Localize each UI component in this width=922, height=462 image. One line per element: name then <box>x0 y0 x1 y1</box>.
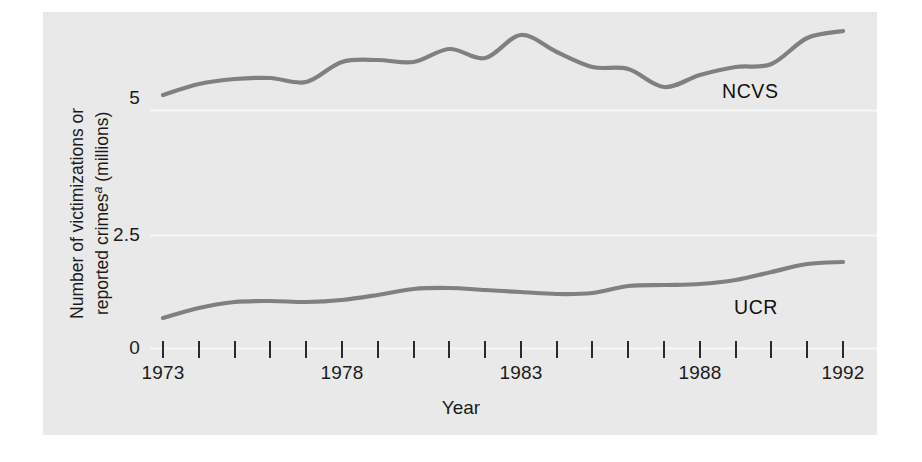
chart-figure: 5 2.5 0 1973 1978 1983 1988 1992 NCVS UC… <box>0 0 922 462</box>
y-axis-title-line2-tail: (millions) <box>92 112 112 187</box>
x-tick-label-1988: 1988 <box>655 362 745 384</box>
x-tick-label-1983: 1983 <box>476 362 566 384</box>
x-tick-label-1978: 1978 <box>297 362 387 384</box>
y-axis-title-line1: Number of victimizations or <box>67 108 87 319</box>
y-axis-title: Number of victimizations orreported crim… <box>67 63 114 363</box>
series-label-ucr: UCR <box>734 296 778 319</box>
x-axis-title: Year <box>0 397 922 419</box>
y-axis-title-superscript: a <box>91 187 105 194</box>
series-label-ncvs: NCVS <box>722 80 779 103</box>
x-tick-label-1973: 1973 <box>118 362 208 384</box>
y-axis-title-line2: reported crimes <box>92 194 112 316</box>
x-tick-label-1992: 1992 <box>798 362 888 384</box>
